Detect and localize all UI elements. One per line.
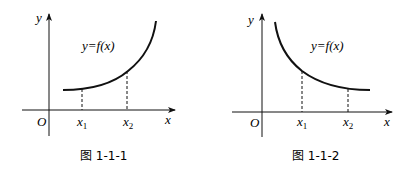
decreasing-curve — [275, 22, 370, 90]
x-axis-label: x — [383, 114, 390, 129]
origin-label: O — [37, 114, 47, 129]
x-axis-label: x — [164, 112, 171, 127]
increasing-curve — [63, 21, 156, 90]
x2-label: x2 — [342, 114, 353, 131]
figure-caption: 图 1-1-2 — [292, 149, 339, 163]
x1-label: x1 — [76, 114, 87, 131]
function-label: y=f(x) — [309, 38, 344, 53]
origin-label: O — [250, 115, 260, 130]
figure-caption: 图 1-1-1 — [80, 149, 127, 163]
y-axis-label: y — [34, 10, 42, 25]
function-label: y=f(x) — [80, 38, 115, 53]
x1-label: x1 — [296, 114, 307, 131]
figure-decreasing: y x O y=f(x) x1 x2 图 1-1-2 — [232, 12, 392, 163]
x2-label: x2 — [122, 114, 133, 131]
y-axis-label: y — [246, 12, 254, 27]
figure-increasing: y x O y=f(x) x1 x2 图 1-1-1 — [22, 10, 175, 163]
